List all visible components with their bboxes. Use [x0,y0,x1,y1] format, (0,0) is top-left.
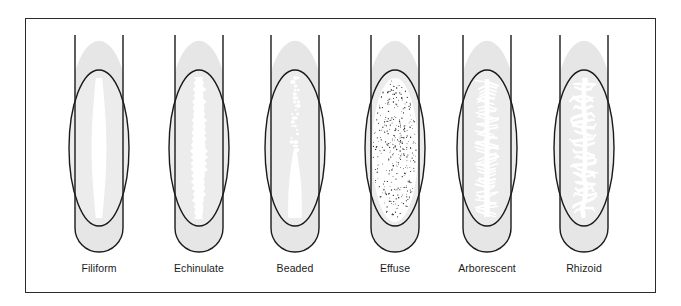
tube-label-beaded: Beaded [240,262,350,274]
tube-drawing-beaded [240,30,350,290]
tube-beaded: Beaded [240,30,350,290]
tube-label-arborescent: Arborescent [432,262,542,274]
tube-label-filiform: Filiform [44,262,154,274]
tube-label-rhizoid: Rhizoid [529,262,639,274]
tube-row: FiliformEchinulateBeadedEffuseArborescen… [0,0,681,306]
growth-pattern-effuse [372,78,418,222]
tube-rhizoid: Rhizoid [529,30,639,290]
tube-drawing-arborescent [432,30,542,290]
tube-drawing-rhizoid [529,30,639,290]
tube-label-echinulate: Echinulate [144,262,254,274]
tube-drawing-echinulate [144,30,254,290]
tube-filiform: Filiform [44,30,154,290]
tube-echinulate: Echinulate [144,30,254,290]
tube-arborescent: Arborescent [432,30,542,290]
growth-pattern-figure: FiliformEchinulateBeadedEffuseArborescen… [0,0,681,306]
tube-drawing-filiform [44,30,154,290]
